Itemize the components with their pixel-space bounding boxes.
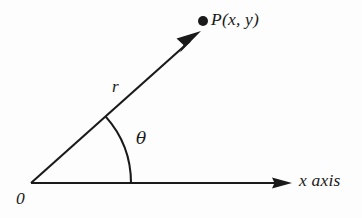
radius-ray-line [31, 41, 190, 183]
x-axis-arrowhead [272, 178, 292, 189]
angle-arc [106, 116, 132, 183]
point-p-dot [198, 16, 208, 26]
polar-coordinate-diagram: P(x, y) r θ 0 x axis [0, 0, 362, 218]
point-p-label: P(x, y) [211, 11, 259, 29]
origin-label: 0 [16, 190, 25, 208]
radius-label: r [112, 78, 119, 95]
angle-theta-label: θ [136, 130, 146, 147]
x-axis-label: x axis [299, 172, 341, 190]
